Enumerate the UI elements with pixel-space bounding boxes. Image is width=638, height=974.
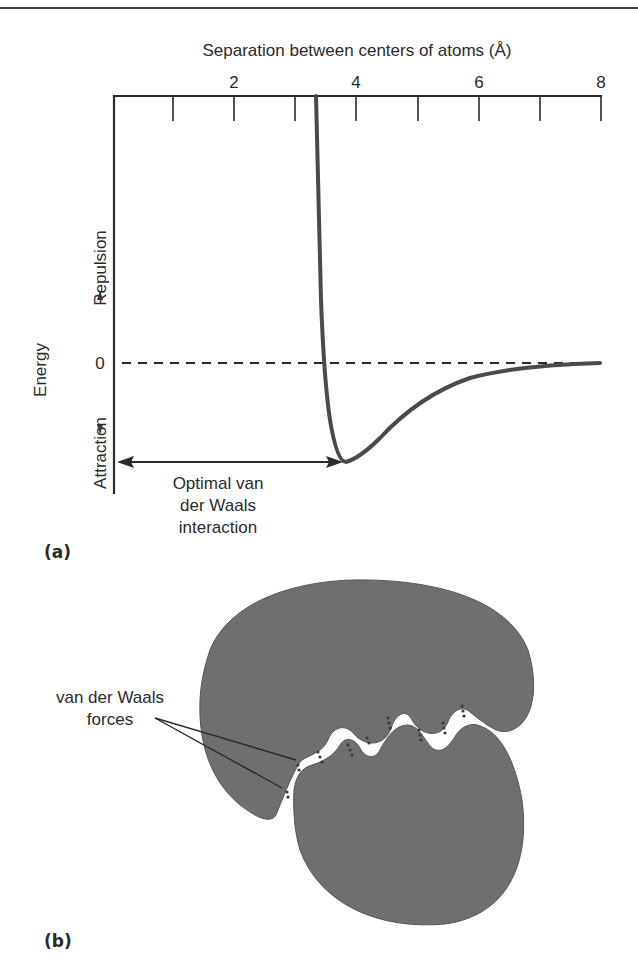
molecule-diagram: van der Waals forces (56, 580, 534, 925)
y-tick-label-zero: 0 (95, 354, 104, 373)
figure-canvas: Separation between centers of atoms (Å) … (0, 0, 638, 974)
optimal-label-line2: der Waals (180, 496, 256, 515)
panel-a-label: (a) (44, 542, 71, 562)
x-ticks (173, 96, 601, 121)
energy-chart: Separation between centers of atoms (Å) … (31, 41, 606, 537)
forces-label-line1: van der Waals (56, 688, 164, 707)
y-axis-title: Energy (31, 343, 50, 397)
x-tick-label-2: 2 (229, 73, 238, 92)
forces-label-line2: forces (87, 710, 133, 729)
x-tick-label-8: 8 (596, 73, 605, 92)
panel-b-label: (b) (44, 931, 72, 951)
x-tick-label-4: 4 (351, 73, 360, 92)
potential-energy-curve (316, 96, 600, 462)
x-axis-title: Separation between centers of atoms (Å) (203, 41, 512, 60)
optimal-label-line1: Optimal van (173, 474, 264, 493)
molecule-bottom (294, 724, 524, 924)
x-tick-label-6: 6 (474, 73, 483, 92)
optimal-label-line3: interaction (179, 518, 257, 537)
